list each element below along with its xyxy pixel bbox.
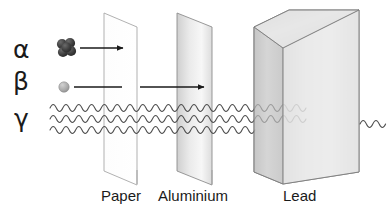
gamma-emergent-wave: [360, 121, 386, 128]
alpha-particle-cluster-icon: [57, 38, 76, 57]
aluminium-label: Aluminium: [158, 187, 228, 204]
gamma-wave-line-3: [50, 127, 255, 134]
radiation-penetration-diagram: α β γ: [0, 0, 390, 219]
alpha-symbol-label: α: [13, 35, 29, 64]
barrier-paper: [104, 13, 137, 185]
lead-label: Lead: [283, 187, 316, 204]
lead-absorption-veil: [254, 10, 359, 184]
paper-sheet-face: [104, 13, 137, 185]
barrier-aluminium: [177, 13, 212, 185]
gamma-row: γ: [14, 104, 29, 133]
gamma-symbol-label: γ: [14, 104, 29, 133]
diagram-canvas: α β γ: [0, 0, 390, 219]
gamma-emergent-wave-group: [360, 121, 386, 128]
beta-symbol-label: β: [13, 67, 29, 96]
aluminium-sheet-face: [177, 13, 212, 185]
material-labels: Paper Aluminium Lead: [101, 187, 316, 204]
beta-particle-dot-icon: [59, 82, 69, 92]
paper-label: Paper: [101, 187, 141, 204]
lead-side-veil: [254, 27, 283, 184]
